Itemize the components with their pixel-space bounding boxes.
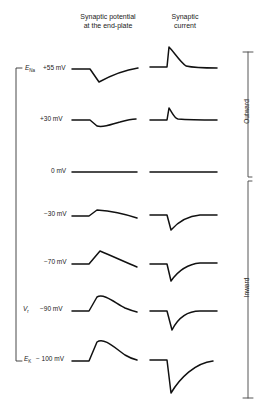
potential-trace-plus55 [72, 68, 138, 82]
potential-trace-minus70 [72, 251, 137, 267]
left-bracket [16, 68, 22, 361]
current-trace-plus30 [150, 108, 217, 120]
current-trace-minus30 [150, 215, 217, 230]
inward-bracket [243, 181, 253, 398]
current-trace-minus90 [150, 311, 217, 330]
current-trace-minus100 [150, 360, 213, 393]
outward-bracket [243, 52, 253, 177]
traces-diagram [0, 0, 267, 408]
current-trace-minus70 [150, 263, 217, 281]
potential-trace-minus100 [72, 341, 137, 361]
current-trace-plus55 [150, 47, 217, 68]
potential-trace-minus90 [72, 296, 137, 312]
right-bracket [243, 52, 253, 398]
potential-trace-minus30 [72, 210, 137, 218]
potential-trace-plus30 [72, 119, 136, 127]
